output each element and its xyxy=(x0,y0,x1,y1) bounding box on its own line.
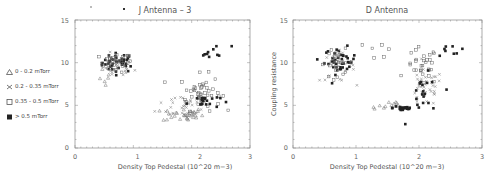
cross-point xyxy=(416,74,419,77)
square-point xyxy=(429,59,432,62)
filled-point xyxy=(341,58,344,61)
cross-point xyxy=(109,51,112,54)
right-xtick-3: 3 xyxy=(480,153,484,161)
cross-point xyxy=(325,56,328,59)
square-point xyxy=(381,44,384,47)
filled-point xyxy=(418,106,421,109)
square-point xyxy=(417,45,420,48)
cross-point xyxy=(433,90,436,93)
square-point xyxy=(207,90,210,93)
left-plot-frame xyxy=(75,20,250,148)
square-point xyxy=(217,92,220,95)
square-point xyxy=(206,94,209,97)
square-point xyxy=(212,88,215,91)
cross-point xyxy=(111,73,114,76)
square-point xyxy=(330,49,333,52)
cross-point xyxy=(328,75,331,78)
square-point xyxy=(208,110,211,113)
cross-point xyxy=(153,110,156,113)
filled-point xyxy=(404,123,407,126)
square-point xyxy=(428,53,431,56)
left-scatter-points xyxy=(90,6,233,121)
filled-point xyxy=(408,108,411,111)
filled-point xyxy=(201,97,204,100)
filled-point xyxy=(316,58,319,61)
filled-point xyxy=(422,102,425,105)
left-ytick-15: 15 xyxy=(61,17,69,25)
filled-point xyxy=(416,104,419,107)
filled-point xyxy=(325,51,328,54)
triangle-point xyxy=(107,73,110,76)
square-point xyxy=(332,79,335,82)
filled-point xyxy=(348,65,351,68)
right-chart-title: D Antenna xyxy=(366,6,408,15)
cross-point xyxy=(185,106,188,109)
filled-point xyxy=(399,106,402,109)
filled-point xyxy=(404,106,407,109)
square-point xyxy=(217,103,220,106)
right-xtick-2: 2 xyxy=(417,153,421,161)
left-ytick-0: 0 xyxy=(65,144,69,152)
filled-point xyxy=(461,48,464,51)
triangle-point xyxy=(378,104,381,107)
square-point xyxy=(185,89,188,92)
filled-point xyxy=(125,62,128,65)
triangle-point xyxy=(387,101,390,104)
right-xtick-0: 0 xyxy=(291,153,295,161)
filled-point xyxy=(426,82,429,85)
filled-point xyxy=(215,106,218,109)
cross-point xyxy=(169,113,172,116)
filled-point xyxy=(418,82,421,85)
filled-point xyxy=(422,90,425,93)
triangle-point xyxy=(104,84,107,87)
cross-point xyxy=(416,100,419,103)
right-xtick-1: 1 xyxy=(354,153,358,161)
filled-point xyxy=(438,54,441,57)
square-point xyxy=(214,78,217,81)
left-xtick-0: 0 xyxy=(73,153,77,161)
left-ytick-5: 5 xyxy=(65,101,69,109)
right-plot-frame xyxy=(293,20,482,148)
cross-point xyxy=(352,68,355,71)
cross-point xyxy=(170,98,173,101)
filled-point xyxy=(431,81,434,84)
cross-point xyxy=(352,64,355,67)
cross-point xyxy=(169,106,172,109)
triangle-point xyxy=(201,114,204,117)
filled-point xyxy=(219,97,222,100)
square-point xyxy=(400,74,403,77)
filled-point xyxy=(453,52,456,55)
filled-point xyxy=(451,45,454,48)
right-xaxis-label: Density Top Pedestal (10^20 m−3) xyxy=(330,163,444,171)
square-point xyxy=(207,71,210,74)
square-point xyxy=(423,59,426,62)
cross-point xyxy=(125,68,128,71)
cross-point xyxy=(356,84,359,87)
square-point xyxy=(424,61,427,64)
filled-point xyxy=(352,58,355,61)
stray-point xyxy=(123,8,125,10)
triangle-point xyxy=(170,116,173,119)
cross-point xyxy=(413,92,416,95)
square-point xyxy=(388,48,391,51)
square-point xyxy=(227,109,230,112)
filled-point xyxy=(415,98,418,101)
cross-point xyxy=(172,112,175,115)
filled-point xyxy=(127,70,130,73)
filled-point xyxy=(444,50,447,53)
square-point xyxy=(344,47,347,50)
cross-point xyxy=(433,93,436,96)
triangle-point xyxy=(372,106,375,109)
left-xtick-2: 2 xyxy=(198,153,202,161)
filled-point xyxy=(212,48,215,51)
square-point xyxy=(361,44,364,47)
filled-point xyxy=(423,93,426,96)
filled-point xyxy=(203,97,206,100)
filled-point xyxy=(402,107,405,110)
triangle-point xyxy=(101,68,104,71)
triangle-point xyxy=(106,76,109,79)
filled-point xyxy=(185,102,188,105)
square-point xyxy=(181,81,184,84)
cross-point xyxy=(438,73,441,76)
square-point xyxy=(410,51,413,54)
